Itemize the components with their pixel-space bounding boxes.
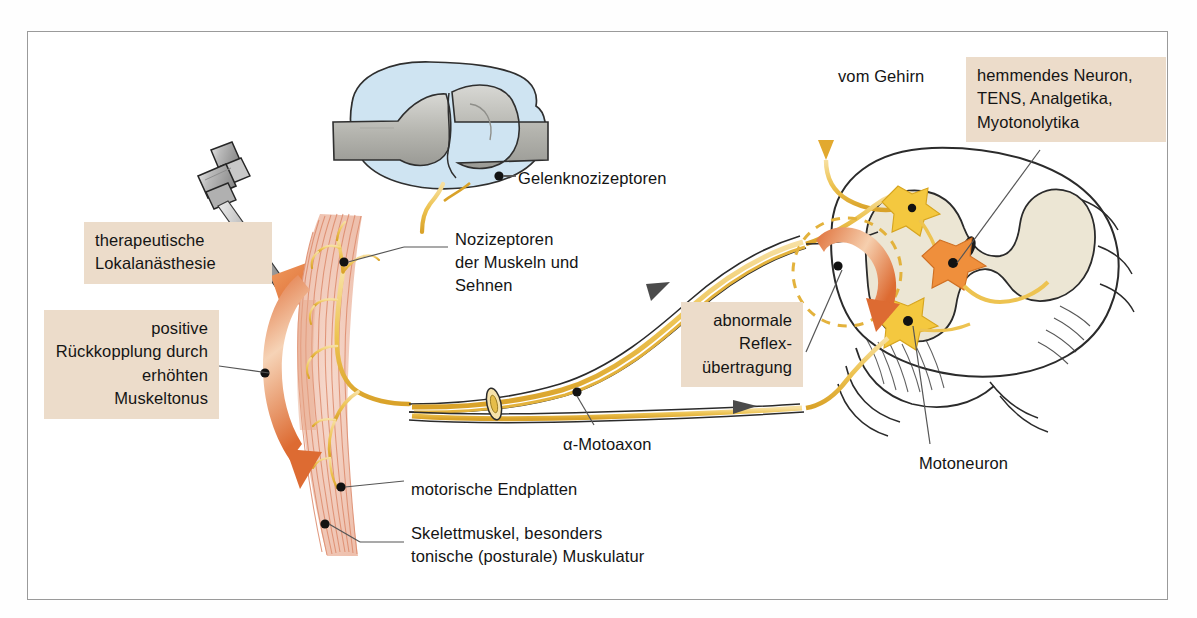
joint-nociceptor-dot xyxy=(494,171,503,180)
nerve-cross-section xyxy=(484,387,504,421)
leader-alpha-motoaxon xyxy=(577,396,594,425)
spinal-cord-cross-section xyxy=(831,148,1134,436)
label-motoneuron: Motoneuron xyxy=(919,452,1008,475)
joint-illustration xyxy=(333,62,548,232)
descending-arrowhead xyxy=(818,140,834,160)
label-alpha-motoaxon: α-Motoaxon xyxy=(563,433,652,456)
label-vom-gehirn: vom Gehirn xyxy=(838,65,924,88)
alpha-motoaxon-dot xyxy=(572,387,581,396)
label-abnormale-reflexuebertragung: abnormale Reflex- übertragung xyxy=(681,302,803,387)
joint-nociceptor-fiber xyxy=(422,184,443,232)
skeletal-muscle-dot xyxy=(320,519,329,528)
nociceptor-muscle-dot xyxy=(339,257,348,266)
label-nozizeptoren-muskeln-sehnen: Nozizeptoren der Muskeln und Sehnen xyxy=(455,228,579,297)
leader-motorische-endplatten xyxy=(345,481,404,487)
afferent-direction-arrow xyxy=(646,282,670,301)
label-positive-rueckkopplung: positive Rückkopplung durch erhöhten Mus… xyxy=(44,310,219,419)
motor-endplate-dot xyxy=(336,482,345,491)
label-skelettmuskel: Skelettmuskel, besonders tonische (postu… xyxy=(411,522,644,568)
label-motorische-endplatten: motorische Endplatten xyxy=(411,478,577,501)
label-hemmendes-neuron-tens: hemmendes Neuron, TENS, Analgetika, Myot… xyxy=(966,57,1166,142)
label-gelenknozizeptoren: Gelenknozizeptoren xyxy=(518,167,667,190)
relay-neuron-soma-dot xyxy=(948,258,958,268)
abnormal-reflex-dot xyxy=(833,261,842,270)
label-therapeutische-lokalanaesthesie: therapeutische Lokalanästhesie xyxy=(84,222,272,284)
leader-positive-feedback xyxy=(219,366,269,373)
motoneuron-soma-dot xyxy=(903,316,913,326)
figure-root: therapeutische Lokalanästhesie positive … xyxy=(0,0,1197,618)
